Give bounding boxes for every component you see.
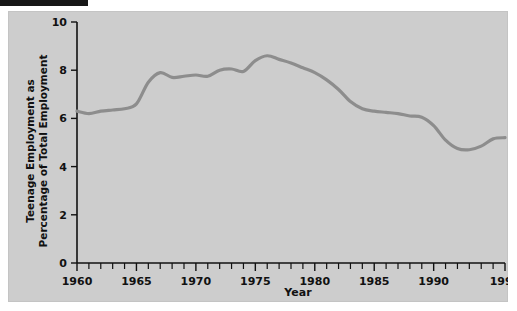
x-tick-label: 1975 — [240, 275, 271, 288]
y-axis-ticks — [71, 22, 77, 263]
y-tick-label: 0 — [59, 257, 67, 270]
y-axis-title-line1: Teenage Employment as — [24, 79, 36, 223]
x-axis-ticks — [77, 263, 505, 271]
x-tick-label: 1990 — [418, 275, 449, 288]
y-tick-label: 6 — [59, 112, 67, 125]
x-axis-title: Year — [283, 286, 312, 299]
x-tick-label: 1965 — [121, 275, 152, 288]
chart-panel: Teenage Employment as Percentage of Tota… — [8, 11, 508, 302]
x-tick-label: 1985 — [359, 275, 390, 288]
line-chart: Teenage Employment as Percentage of Tota… — [8, 11, 508, 302]
y-tick-label: 10 — [52, 16, 68, 29]
crop-bar — [0, 0, 88, 6]
series-line-teenage-employment — [77, 56, 505, 150]
y-tick-label: 8 — [59, 64, 67, 77]
x-tick-label: 1960 — [62, 275, 93, 288]
x-tick-label: 1996 — [490, 275, 508, 288]
y-axis-tick-labels: 0246810 — [52, 16, 68, 270]
x-tick-label: 1970 — [181, 275, 212, 288]
y-axis-title-line2: Percentage of Total Employment — [37, 55, 49, 248]
y-tick-label: 4 — [59, 161, 67, 174]
y-axis-title: Teenage Employment as Percentage of Tota… — [24, 55, 49, 248]
y-tick-label: 2 — [59, 209, 67, 222]
